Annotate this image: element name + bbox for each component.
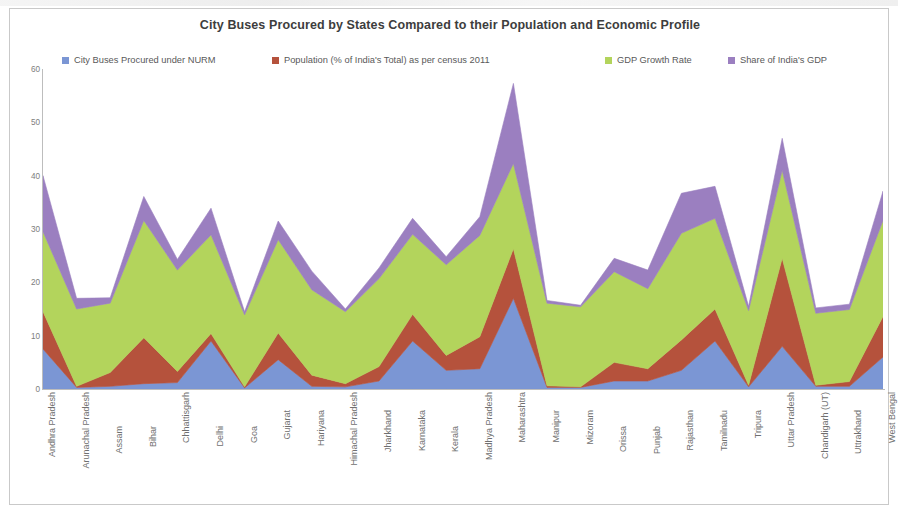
scan-artifact-strip: [0, 0, 898, 6]
stacked-area-svg: [43, 69, 883, 389]
legend-item-label: Share of India's GDP: [740, 55, 827, 65]
chart-title: City Buses Procured by States Compared t…: [10, 18, 890, 32]
legend-swatch-gdp-growth: [605, 57, 612, 64]
x-label-tripura: Tripura: [753, 410, 763, 438]
legend-item-2[interactable]: GDP Growth Rate: [605, 55, 692, 65]
y-tick-60: 60: [14, 65, 40, 74]
y-tick-30: 30: [14, 225, 40, 234]
x-label-chhattisgarh: Chhattisgarh: [181, 392, 191, 443]
x-label-assam: Assam: [114, 426, 124, 454]
plot-area: [43, 69, 883, 389]
x-label-uttar-pradesh: Uttar Pradesh: [786, 392, 796, 448]
x-label-mizoram: Mizoram: [585, 410, 595, 445]
y-tick-10: 10: [14, 331, 40, 340]
legend-item-0[interactable]: City Buses Procured under NURM: [62, 55, 216, 65]
x-label-jharkhand: Jharkhand: [383, 410, 393, 452]
x-label-orissa: Orissa: [618, 426, 628, 452]
legend-swatch-population: [272, 57, 279, 64]
x-axis-line: [43, 389, 885, 390]
x-label-arunachal-pradesh: Arunachal Pradesh: [81, 392, 91, 469]
legend-item-label: GDP Growth Rate: [617, 55, 692, 65]
x-label-gujarat: Gujarat: [282, 410, 292, 440]
legend-item-label: City Buses Procured under NURM: [74, 55, 216, 65]
legend-item-label: Population (% of India's Total) as per c…: [284, 55, 490, 65]
x-axis-category-labels: Andhra PradeshArunachal PradeshAssamBiha…: [43, 392, 883, 502]
x-label-tamilnadu: Tamilnadu: [719, 410, 729, 451]
x-label-punjab: Punjab: [652, 426, 662, 454]
y-tick-40: 40: [14, 171, 40, 180]
legend-swatch-buses: [62, 57, 69, 64]
x-label-chandigarh-ut: Chandigarh (UT): [820, 392, 830, 459]
legend-swatch-gdp-share: [728, 57, 735, 64]
x-label-delhi: Delhi: [215, 426, 225, 447]
x-label-uttrakhand: Uttrakhand: [853, 410, 863, 454]
x-label-himachal-pradesh: Himachal Pradesh: [349, 392, 359, 466]
chart-frame: City Buses Procured by States Compared t…: [9, 8, 889, 505]
x-label-kerala: Kerala: [450, 426, 460, 452]
legend-item-1[interactable]: Population (% of India's Total) as per c…: [272, 55, 490, 65]
x-label-manipur: Manipur: [551, 410, 561, 443]
x-label-karnataka: Karnataka: [417, 410, 427, 451]
y-tick-0: 0: [14, 385, 40, 394]
x-label-goa: Goa: [249, 426, 259, 443]
x-label-west-bengal: West Bengal: [887, 392, 897, 443]
y-axis-tick-labels: 6050403020100: [14, 69, 42, 389]
legend-item-3[interactable]: Share of India's GDP: [728, 55, 827, 65]
x-label-madhya-pradesh: Madhya Pradesh: [484, 392, 494, 460]
x-label-rajasthan: Rajasthan: [685, 410, 695, 451]
x-label-bihar: Bihar: [148, 426, 158, 447]
y-tick-20: 20: [14, 278, 40, 287]
x-label-andhra-pradesh: Andhra Pradesh: [47, 392, 57, 457]
x-label-maharashtra: Maharashtra: [517, 392, 527, 443]
x-label-hariyana: Hariyana: [316, 410, 326, 446]
y-tick-50: 50: [14, 118, 40, 127]
